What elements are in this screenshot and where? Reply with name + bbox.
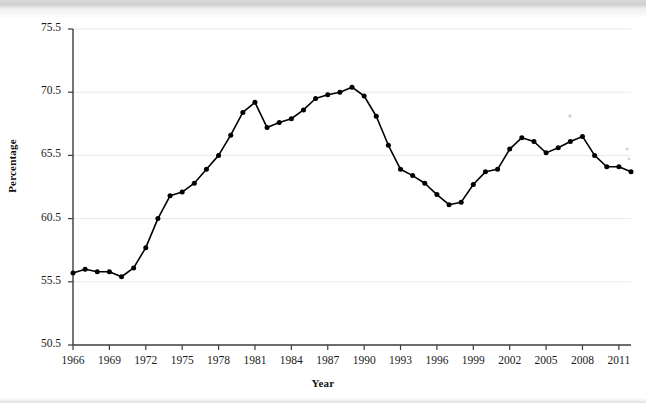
scan-specks-group <box>568 114 630 160</box>
data-point <box>325 92 330 97</box>
data-point <box>447 202 452 207</box>
data-point <box>83 267 88 272</box>
axes-group <box>73 29 631 345</box>
data-point <box>301 107 306 112</box>
data-point <box>313 96 318 101</box>
data-point <box>143 245 148 250</box>
x-axis-title: Year <box>0 377 646 389</box>
data-point <box>168 193 173 198</box>
data-point <box>386 143 391 148</box>
data-point <box>131 265 136 270</box>
y-axis-title: Percentage <box>6 121 18 211</box>
x-axis-tick-label: 2011 <box>597 354 641 366</box>
tickmarks-group <box>68 29 619 350</box>
data-point <box>119 274 124 279</box>
data-point <box>507 147 512 152</box>
figure-container: 50.555.560.565.570.575.5 196619691972197… <box>0 0 646 403</box>
data-point <box>107 269 112 274</box>
data-point <box>240 110 245 115</box>
data-point <box>252 100 257 105</box>
y-axis-tick-label: 60.5 <box>21 211 61 223</box>
data-point <box>580 134 585 139</box>
y-axis-tick-label: 65.5 <box>21 147 61 159</box>
data-point <box>434 192 439 197</box>
data-point <box>180 190 185 195</box>
data-point <box>556 145 561 150</box>
data-point <box>422 181 427 186</box>
data-point <box>592 153 597 158</box>
y-axis-tick-label: 75.5 <box>21 21 61 33</box>
data-point <box>71 270 76 275</box>
data-point <box>483 169 488 174</box>
data-point <box>568 139 573 144</box>
data-point <box>398 167 403 172</box>
data-point <box>410 173 415 178</box>
data-point <box>531 139 536 144</box>
gridlines-group <box>73 29 631 282</box>
data-point <box>95 269 100 274</box>
data-point <box>192 181 197 186</box>
data-point <box>362 93 367 98</box>
y-axis-tick-label: 50.5 <box>21 337 61 349</box>
data-point <box>204 167 209 172</box>
data-line-path <box>73 87 631 277</box>
data-point <box>519 135 524 140</box>
data-point <box>471 182 476 187</box>
data-points-group <box>71 85 634 280</box>
data-point <box>544 150 549 155</box>
data-series-group <box>71 85 634 280</box>
y-axis-tick-label: 70.5 <box>21 84 61 96</box>
data-point <box>350 85 355 90</box>
data-point <box>265 125 270 130</box>
line-chart-plot <box>0 0 646 403</box>
y-axis-tick-label: 55.5 <box>21 274 61 286</box>
data-point <box>155 216 160 221</box>
data-point <box>629 169 634 174</box>
data-point <box>289 116 294 121</box>
data-point <box>216 153 221 158</box>
data-point <box>495 167 500 172</box>
data-point <box>228 133 233 138</box>
data-point <box>337 90 342 95</box>
data-point <box>374 114 379 119</box>
data-point <box>604 164 609 169</box>
data-point <box>277 120 282 125</box>
data-point <box>616 164 621 169</box>
data-point <box>459 200 464 205</box>
